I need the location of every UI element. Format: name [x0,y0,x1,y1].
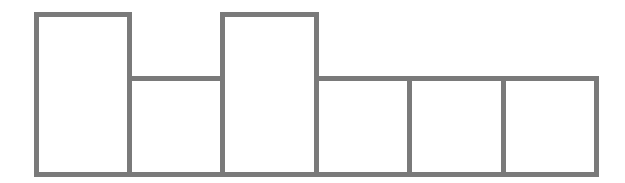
bar-2-short [127,76,225,177]
bar-1-tall [34,12,132,177]
bar-5-short [407,76,506,177]
bar-3-tall [220,12,319,177]
bar-6-short [501,76,599,177]
bar-4-short [314,76,412,177]
